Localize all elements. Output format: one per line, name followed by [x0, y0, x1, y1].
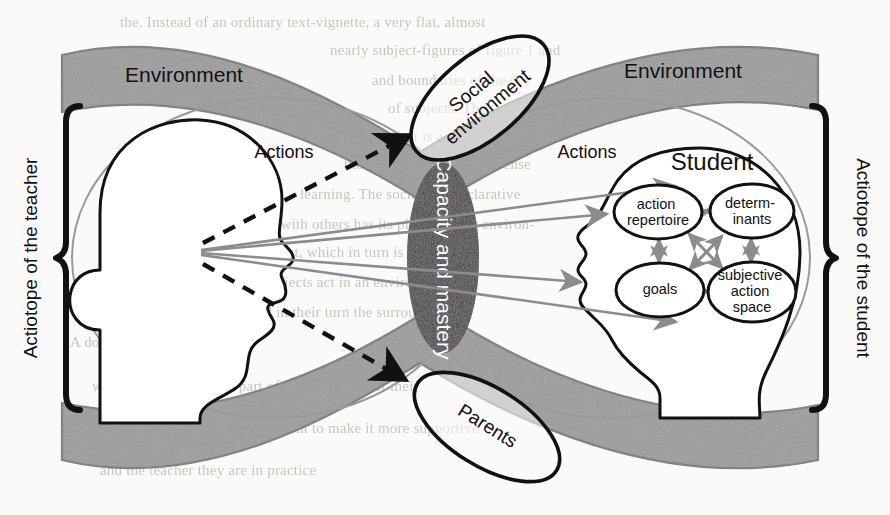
actiotope-of-the-student-bracket: Actiotope of the student [812, 106, 874, 410]
student-label: Student [671, 148, 754, 175]
actions-label-student: Actions [557, 142, 616, 162]
subjective-action-space-label-line-2: action [731, 283, 770, 299]
action-repertoire-label-line-2: repertoire [627, 212, 689, 228]
actiotope-diagram: Capacity and mastery Social enviro [0, 0, 890, 515]
right-brace-icon [812, 106, 836, 410]
goals-label: goals [643, 281, 678, 297]
link-action-repertoire-determinants [704, 211, 709, 212]
action-repertoire-label-line-1: action [637, 196, 676, 212]
student-node-action-repertoire: action repertoire [614, 185, 702, 239]
actions-label-teacher: Actions [254, 142, 313, 162]
determinants-label: determ- inants [725, 195, 779, 227]
core-label: Capacity and mastery [433, 156, 456, 360]
actiotope-of-the-teacher-label: Actiotope of the teacher [20, 157, 41, 358]
determinants-label-line-1: determ- [725, 195, 775, 211]
subjective-action-space-label-line-1: subjective [718, 267, 782, 283]
environment-label-left: Environment [125, 63, 243, 86]
environment-label-right: Environment [624, 59, 742, 82]
actiotope-of-the-student-label: Actiotope of the student [853, 158, 874, 358]
student-node-subjective-action-space: subjective action space [708, 262, 796, 322]
student-node-determinants: determ- inants [710, 184, 794, 238]
student-node-goals: goals [616, 263, 704, 317]
figure-canvas: the. Instead of an ordinary text-vignett… [0, 0, 890, 515]
determinants-label-line-2: inants [733, 211, 772, 227]
subjective-action-space-label-line-3: space [733, 299, 772, 315]
